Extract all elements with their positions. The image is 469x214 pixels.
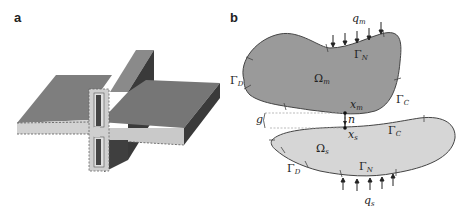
label-q-s: qs [364,194,375,208]
label-q-m: qm [352,12,366,26]
label-gap-g: g [256,113,263,126]
label-gamma-d-master: ΓD [230,74,244,88]
load-arrows-slave [341,174,395,191]
panel-b-contact-diagram: qm ΓN Ωm ΓD ΓC xm g n xs ΓC Ωs ΓD ΓN qs [0,0,469,214]
label-normal-n: n [348,113,355,126]
label-gamma-c-master: ΓC [396,93,410,107]
